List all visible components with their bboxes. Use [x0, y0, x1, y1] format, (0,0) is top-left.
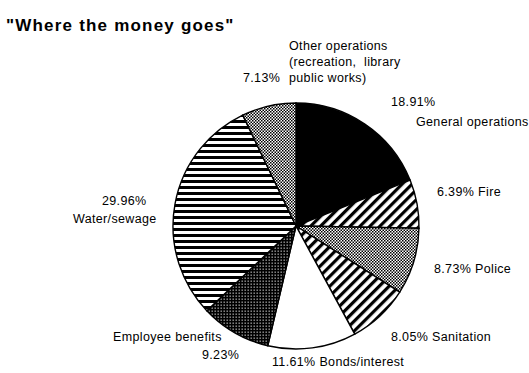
label-sanitation: 8.05% Sanitation — [391, 330, 491, 345]
pie-slice-other-operations — [243, 103, 296, 226]
label-other-operations: Other operations (recreation, library pu… — [289, 38, 401, 86]
pie-slice-sanitation — [296, 226, 400, 334]
label-water-sewage-percent: 29.96% — [102, 194, 147, 209]
pie-slice-general-operations — [296, 103, 410, 226]
label-employee-benefits-percent: 9.23% — [202, 348, 239, 363]
label-fire: 6.39% Fire — [437, 185, 501, 200]
label-bonds-interest: 11.61% Bonds/interest — [272, 355, 404, 370]
pie-slices-group — [173, 103, 419, 349]
pie-slice-water-sewage — [173, 115, 296, 311]
pie-slice-fire — [296, 180, 419, 228]
label-employee-benefits: Employee benefits — [113, 330, 222, 345]
label-general-operations: General operations — [416, 115, 529, 130]
label-water-sewage: Water/sewage — [73, 212, 157, 227]
pie-slice-bonds-interest — [268, 226, 355, 349]
label-other-operations-percent: 7.13% — [243, 71, 280, 86]
label-general-operations-percent: 18.91% — [391, 95, 436, 110]
label-police: 8.73% Police — [434, 262, 511, 277]
page-title: "Where the money goes" — [6, 16, 235, 36]
pie-slice-police — [296, 226, 419, 292]
pie-slice-employee-benefits — [207, 226, 296, 346]
